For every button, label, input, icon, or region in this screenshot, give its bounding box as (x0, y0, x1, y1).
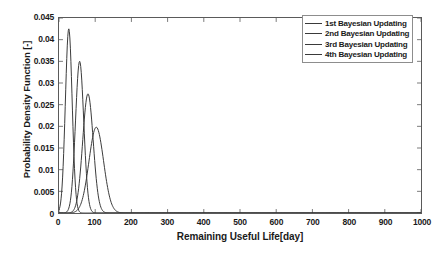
legend-item-label: 2nd Bayesian Updating (325, 29, 409, 38)
x-tick-label: 600 (270, 217, 284, 227)
x-tick-label: 0 (56, 217, 61, 227)
y-tick-label: 0.015 (34, 143, 54, 153)
y-axis-tick-labels: 00.0050.010.0150.020.0250.030.0350.040.0… (0, 17, 54, 214)
legend-line-swatch-icon (305, 33, 322, 34)
legend-line-swatch-icon (305, 44, 322, 45)
y-tick-label: 0.02 (38, 121, 54, 131)
legend-item-label: 1st Bayesian Updating (325, 19, 407, 28)
legend-item-label: 4th Bayesian Updating (325, 50, 407, 59)
y-tick-label: 0.01 (38, 165, 54, 175)
x-tick-label: 400 (197, 217, 211, 227)
pdf-curve-2 (59, 61, 421, 213)
x-axis-tick-labels: 01002003004005006007008009001000 (58, 217, 422, 231)
pdf-curve-3 (59, 94, 421, 213)
x-tick-label: 300 (160, 217, 174, 227)
x-axis-title: Remaining Useful Life[day] (58, 231, 422, 242)
legend-item-2[interactable]: 2nd Bayesian Updating (305, 29, 409, 40)
x-tick-label: 700 (306, 217, 320, 227)
y-tick-label: 0.025 (34, 100, 54, 110)
x-tick-label: 500 (233, 217, 247, 227)
y-tick-label: 0.005 (34, 187, 54, 197)
x-tick-label: 1000 (413, 217, 431, 227)
legend-item-1[interactable]: 1st Bayesian Updating (305, 18, 409, 29)
y-tick-label: 0.03 (38, 78, 54, 88)
y-tick-label: 0.045 (34, 12, 54, 22)
x-tick-label: 800 (342, 217, 356, 227)
x-tick-label: 900 (379, 217, 393, 227)
y-tick-label: 0 (49, 209, 54, 219)
y-tick-label: 0.04 (38, 34, 54, 44)
x-tick-label: 100 (88, 217, 102, 227)
pdf-chart-figure: Probability Density Function [-] 00.0050… (0, 0, 436, 254)
legend-line-swatch-icon (305, 54, 322, 55)
legend-item-3[interactable]: 3rd Bayesian Updating (305, 39, 409, 50)
legend-item-4[interactable]: 4th Bayesian Updating (305, 50, 409, 61)
y-tick-label: 0.035 (34, 56, 54, 66)
legend-line-swatch-icon (305, 23, 322, 24)
chart-legend: 1st Bayesian Updating2nd Bayesian Updati… (302, 15, 413, 63)
pdf-curve-4 (59, 127, 421, 213)
legend-item-label: 3rd Bayesian Updating (325, 40, 408, 49)
x-tick-label: 200 (124, 217, 138, 227)
